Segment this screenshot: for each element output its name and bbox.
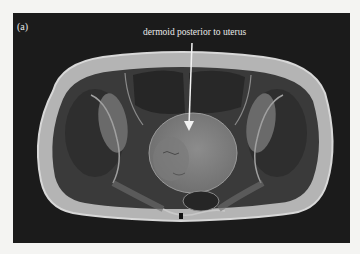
mri-axial-pelvis-image [13,13,350,243]
panel-label: (a) [17,21,28,32]
annotation-label: dermoid posterior to uterus [143,27,246,37]
mri-figure: (a) dermoid posterior to uterus [13,13,350,243]
